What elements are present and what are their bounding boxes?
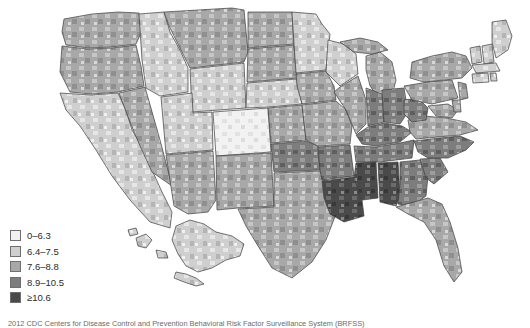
state-nebraska[interactable] [246,79,302,108]
legend-item[interactable]: 8.9–10.5 [10,275,106,291]
state-new-hampshire[interactable] [482,44,494,64]
hawaii-island-2[interactable] [128,228,138,236]
map-legend: 0–6.3 6.4–7.5 7.6–8.8 8.9–10.5 ≥10.6 [10,228,106,306]
legend-swatch-icon [10,230,21,241]
state-arizona[interactable] [166,151,216,214]
state-washington[interactable] [62,12,141,48]
state-vermont[interactable] [470,46,482,64]
state-connecticut[interactable] [472,73,489,83]
state-new-york[interactable] [410,52,472,82]
state-alabama[interactable] [378,162,400,206]
state-kansas[interactable] [268,105,306,143]
legend-swatch-icon [10,292,21,303]
state-new-mexico[interactable] [216,153,274,210]
source-caption: 2012 CDC Centers for Disease Control and… [8,319,528,328]
legend-item[interactable]: 0–6.3 [10,228,106,244]
state-alaska-inset[interactable] [172,220,244,272]
state-massachusetts[interactable] [472,63,500,73]
state-arkansas[interactable] [318,145,354,180]
state-south-dakota[interactable] [247,45,297,82]
legend-item-label: 8.9–10.5 [27,277,64,288]
state-indiana[interactable] [366,88,384,126]
legend-swatch-icon [10,277,21,288]
state-oregon[interactable] [60,45,144,94]
state-new-jersey[interactable] [458,82,468,100]
state-maine[interactable] [492,20,512,58]
state-rhode-island[interactable] [490,73,497,81]
state-wyoming[interactable] [190,63,246,112]
legend-item[interactable]: 7.6–8.8 [10,259,106,275]
legend-item-label: ≥10.6 [27,292,51,303]
legend-swatch-icon [10,246,21,257]
state-north-carolina[interactable] [414,136,474,158]
state-delaware[interactable] [452,100,461,112]
state-hawaii-inset[interactable] [136,234,152,248]
alaska-aleutians[interactable] [174,272,204,286]
state-north-dakota[interactable] [248,12,294,48]
legend-item-label: 7.6–8.8 [27,261,59,272]
choropleth-figure: 0–6.3 6.4–7.5 7.6–8.8 8.9–10.5 ≥10.6 201… [0,0,530,328]
state-florida[interactable] [396,198,462,282]
map-states-layer [60,8,512,286]
state-minnesota[interactable] [292,12,330,73]
legend-item-label: 0–6.3 [27,230,51,241]
hawaii-island-3[interactable] [156,250,168,258]
state-colorado[interactable] [213,108,271,156]
state-oklahoma[interactable] [271,141,320,172]
legend-item[interactable]: ≥10.6 [10,290,106,306]
legend-swatch-icon [10,261,21,272]
legend-item-label: 6.4–7.5 [27,246,59,257]
legend-item[interactable]: 6.4–7.5 [10,244,106,260]
